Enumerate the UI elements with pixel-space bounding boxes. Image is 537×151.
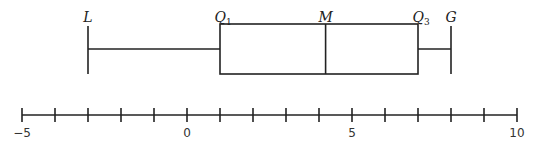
number-line-axis: [22, 108, 517, 122]
label-lower-extreme: L: [83, 10, 92, 29]
axis-tick-label: −5: [13, 127, 31, 139]
interquartile-box: [220, 24, 418, 74]
axis-tick-label: 0: [183, 127, 191, 139]
label-median: M: [318, 10, 332, 29]
box-plot-diagram: L Q1 M Q3 G −5 0 5 10: [0, 0, 537, 151]
label-first-quartile: Q1: [214, 10, 231, 29]
label-third-quartile: Q3: [412, 10, 429, 29]
axis-tick-label: 10: [509, 127, 524, 139]
box-plot: [88, 24, 451, 74]
axis-tick-label: 5: [348, 127, 356, 139]
label-upper-extreme: G: [445, 10, 456, 29]
